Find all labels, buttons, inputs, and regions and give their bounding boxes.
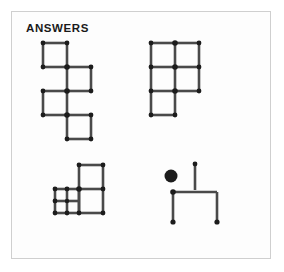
match-head [41,65,46,70]
match-head [76,186,82,192]
match-head [89,89,94,94]
staircase-diagram [38,38,124,146]
match-head [89,65,94,70]
match-head [101,163,106,168]
match-head [65,137,70,142]
match-head [41,89,46,94]
ball-icon [165,170,178,183]
figure-subdivided-square-cluster [50,160,134,246]
match-head [193,162,198,167]
grid-diagram [146,38,226,142]
match-head [65,211,70,216]
match-head [149,89,154,94]
match-head [172,64,178,70]
match-head [170,219,175,224]
match-head [197,65,202,70]
answers-panel: ANSWERS [11,11,271,259]
match-head [89,137,94,142]
match-head [64,112,70,118]
match-head [173,113,178,118]
match-head [77,211,82,216]
page-title: ANSWERS [26,22,89,34]
match-head [65,187,70,192]
match-head [53,211,58,216]
match-sticks [173,164,217,222]
match-head [64,64,70,70]
match-head [170,189,176,195]
match-head [65,41,70,46]
match-head [101,187,106,192]
match-head [53,187,58,192]
match-head [53,199,58,204]
match-head [149,41,154,46]
figure-five-square-grid [146,38,226,142]
match-head [65,199,69,203]
match-head [197,89,202,94]
match-sticks [151,43,199,115]
match-head [77,163,82,168]
match-head [41,41,46,46]
match-head [89,113,94,118]
match-head [149,113,154,118]
match-head [172,40,178,46]
match-head [41,113,46,118]
match-head [172,88,178,94]
ball-table-diagram [162,160,232,236]
match-head [64,88,70,94]
match-head [197,41,202,46]
subdivided-diagram [50,160,134,246]
answers-page: ANSWERS [0,0,284,272]
match-head [101,211,106,216]
figure-ball-and-table [162,160,232,236]
match-head [214,219,219,224]
figure-four-square-staircase [38,38,124,146]
match-head [149,65,154,70]
